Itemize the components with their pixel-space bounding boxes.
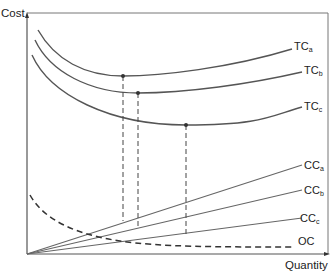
cc-c-label: CCc <box>300 213 319 225</box>
tc-c-label: TCc <box>304 101 322 113</box>
cc-c-label-main: CC <box>300 212 316 224</box>
cost-chart <box>0 0 334 275</box>
tc-a-label-main: TC <box>294 40 309 52</box>
tc-b-label-main: TC <box>304 64 319 76</box>
cc-b-line <box>27 190 302 254</box>
cc-a-label-sub: a <box>320 165 324 172</box>
cc-a-label: CCa <box>304 160 324 172</box>
tc-a-curve <box>38 30 292 76</box>
tc-a-min-marker <box>121 74 125 78</box>
tc-b-curve <box>35 40 302 93</box>
cc-c-label-sub: c <box>316 218 320 225</box>
tc-c-label-main: TC <box>304 100 319 112</box>
tc-b-min-marker <box>136 91 140 95</box>
cc-b-label-sub: b <box>320 190 324 197</box>
tc-b-label-sub: b <box>319 70 323 77</box>
tc-c-label-sub: c <box>319 106 323 113</box>
cc-c-line <box>27 218 302 254</box>
tc-b-label: TCb <box>304 65 323 77</box>
y-axis-label: Cost <box>1 8 25 20</box>
cc-b-label-main: CC <box>304 184 320 196</box>
tc-a-label-sub: a <box>309 46 313 53</box>
x-axis-label: Quantity <box>285 260 328 272</box>
x-axis-arrow-icon <box>324 252 330 256</box>
cc-a-label-main: CC <box>304 159 320 171</box>
cc-a-line <box>27 165 302 254</box>
cc-b-label: CCb <box>304 185 324 197</box>
oc-label: OC <box>298 236 315 247</box>
tc-a-label: TCa <box>294 41 313 53</box>
tc-c-min-marker <box>184 123 188 127</box>
oc-curve <box>30 195 292 247</box>
tc-c-curve <box>32 55 302 125</box>
